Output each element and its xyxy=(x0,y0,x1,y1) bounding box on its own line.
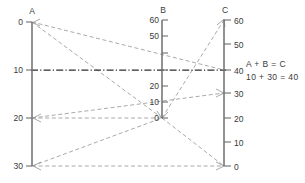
axis-b-tick-label-20: 20 xyxy=(150,81,160,91)
axis-b-group: B 60 50 20 10 0 xyxy=(150,5,168,123)
nomogram-canvas: A 0 10 20 30 B 60 50 20 10 0 xyxy=(0,0,305,183)
construction-line-b0-c0-segment xyxy=(162,118,224,166)
axis-a-tick-label-30: 30 xyxy=(14,161,24,171)
equation-annotation-group: A + B = C 10 + 30 = 40 xyxy=(246,59,299,82)
axis-c-tick-label-50: 50 xyxy=(234,40,244,50)
construction-arrowheads-group xyxy=(33,19,225,170)
equation-substitution: 10 + 30 = 40 xyxy=(246,72,299,82)
axis-a-tick-label-20: 20 xyxy=(14,113,24,123)
construction-line-a20-c30 xyxy=(32,93,224,118)
axis-b-tick-label-0: 0 xyxy=(154,113,159,123)
equation-general: A + B = C xyxy=(246,59,286,69)
axis-a-tick-label-10: 10 xyxy=(14,65,24,75)
construction-lines-group xyxy=(32,20,224,166)
axis-c-tick-label-10: 10 xyxy=(234,138,244,148)
axis-a-group: A 0 10 20 30 xyxy=(14,6,36,171)
construction-line-b0-c60 xyxy=(162,20,224,118)
construction-line-a30-b0-segment xyxy=(32,118,162,166)
axis-b-tick-label-50: 50 xyxy=(150,31,160,41)
axis-c-tick-label-0: 0 xyxy=(234,162,239,172)
axis-a-title: A xyxy=(29,6,35,16)
construction-line-a0-c40 xyxy=(32,22,224,70)
axis-a-tick-label-0: 0 xyxy=(18,17,23,27)
axis-c-tick-label-60: 60 xyxy=(234,16,244,26)
axis-c-tick-label-40: 40 xyxy=(234,66,244,76)
axis-c-title: C xyxy=(222,5,228,15)
axis-b-tick-label-10: 10 xyxy=(150,97,160,107)
axis-c-tick-label-20: 20 xyxy=(234,114,244,124)
axis-b-tick-label-60: 60 xyxy=(150,15,160,25)
axis-c-tick-label-30: 30 xyxy=(234,89,244,99)
nomogram-figure: A 0 10 20 30 B 60 50 20 10 0 xyxy=(0,0,305,183)
axis-c-group: C 60 50 40 30 20 10 0 xyxy=(222,5,244,172)
axis-b-title: B xyxy=(160,5,166,15)
